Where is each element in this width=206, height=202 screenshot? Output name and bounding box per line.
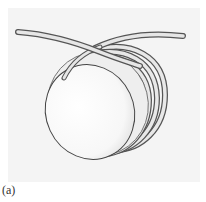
figure-caption: (a) <box>2 183 15 197</box>
capstan-diagram <box>0 0 206 202</box>
